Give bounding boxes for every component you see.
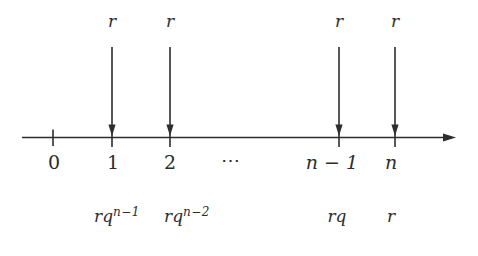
present-value-base-3: rq	[327, 206, 346, 226]
payment-arrowhead-icon-3	[335, 125, 342, 137]
present-value-base-2: rq	[164, 206, 183, 226]
payment-label-3: r	[335, 12, 343, 32]
present-value-exponent-2: n−2	[183, 205, 210, 219]
timeline-graphics	[0, 0, 478, 256]
present-value-label-2: rqn−2	[164, 206, 210, 227]
present-value-label-3: rq	[327, 206, 346, 227]
axis-label-1: 1	[107, 152, 119, 174]
payment-label-2: r	[166, 12, 174, 32]
annuity-timeline-diagram: r r r r 0 1 2 ⋯ n − 1 n rqn−1 rqn−2 rq r	[0, 0, 478, 256]
axis-label-ellipsis: ⋯	[221, 150, 242, 172]
present-value-label-4: r	[387, 206, 395, 227]
payment-arrowhead-icon-2	[166, 125, 173, 137]
payment-label-1: r	[108, 12, 116, 32]
axis-label-0: 0	[48, 152, 60, 174]
present-value-base-4: r	[387, 206, 395, 226]
present-value-base-1: rq	[94, 206, 113, 226]
present-value-label-1: rqn−1	[94, 206, 140, 227]
present-value-exponent-1: n−1	[113, 205, 140, 219]
payment-arrowhead-icon-1	[108, 125, 115, 137]
payment-arrowhead-icon-4	[391, 125, 398, 137]
axis-label-n: n	[385, 152, 397, 174]
time-axis-arrowhead-icon	[443, 134, 456, 142]
payment-label-4: r	[391, 12, 399, 32]
axis-label-2: 2	[164, 152, 176, 174]
axis-label-n-minus-1: n − 1	[306, 152, 358, 174]
